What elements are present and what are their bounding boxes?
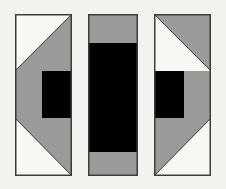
middle-panel-center-band xyxy=(88,43,138,152)
left-panel-middle-section-left-block xyxy=(15,71,42,118)
middle-panel-bottom-band-fill xyxy=(88,152,138,176)
right-panel xyxy=(154,14,211,176)
right-panel-bottom-section xyxy=(154,118,211,176)
right-panel-top-section xyxy=(154,14,211,71)
left-panel-bottom-section xyxy=(15,118,72,176)
right-panel-middle-section-left-block xyxy=(154,71,184,118)
middle-panel-top-band-fill xyxy=(88,14,138,43)
left-panel-top-section xyxy=(15,14,72,71)
middle-panel-bottom-band xyxy=(88,152,138,176)
artwork-canvas xyxy=(0,0,226,189)
left-panel-middle-section xyxy=(15,71,72,118)
right-panel-middle-section-right-block xyxy=(184,71,211,118)
geometric-panels-figure xyxy=(0,0,226,189)
middle-panel-top-band xyxy=(88,14,138,43)
middle-panel xyxy=(88,14,138,176)
middle-panel-center-band-fill xyxy=(88,43,138,152)
left-panel-middle-section-right-block xyxy=(42,71,72,118)
right-panel-middle-section xyxy=(154,71,211,118)
left-panel xyxy=(15,14,72,176)
